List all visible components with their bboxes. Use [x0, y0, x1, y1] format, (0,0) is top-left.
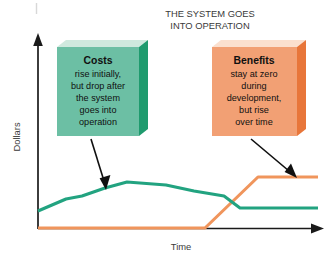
- benefits-box-top-face: [212, 40, 306, 47]
- benefits-box-heading: Benefits: [234, 55, 275, 66]
- benefits-callout-box[interactable]: Benefits stay at zero during development…: [212, 40, 306, 136]
- benefits-box-line-3: development,: [227, 93, 282, 103]
- benefits-box-side-face: [297, 40, 306, 136]
- costs-box-top-face: [57, 40, 148, 47]
- costs-box-heading: Costs: [84, 55, 113, 66]
- costs-benefits-diagram: THE SYSTEM GOES INTO OPERATION Dollars T…: [0, 0, 333, 259]
- costs-box-line-1: rise initially,: [75, 69, 121, 79]
- costs-box-line-3: the system: [76, 93, 120, 103]
- costs-box-side-face: [139, 40, 148, 136]
- benefits-box-line-2: during: [241, 81, 266, 91]
- diagram-title-line2: INTO OPERATION: [170, 20, 249, 31]
- benefits-box-line-4: but rise: [239, 105, 269, 115]
- y-axis-label: Dollars: [11, 122, 22, 151]
- benefits-box-line-1: stay at zero: [230, 69, 277, 79]
- diagram-canvas: THE SYSTEM GOES INTO OPERATION Dollars T…: [0, 0, 333, 259]
- x-axis-label: Time: [171, 241, 191, 252]
- benefits-box-line-5: over time: [235, 117, 272, 127]
- costs-callout-box[interactable]: Costs rise initially, but drop after the…: [57, 40, 148, 136]
- costs-box-line-2: but drop after: [71, 81, 125, 91]
- diagram-title-line1: THE SYSTEM GOES: [165, 8, 255, 19]
- costs-box-line-5: operation: [79, 117, 117, 127]
- costs-box-line-4: goes into: [80, 105, 117, 115]
